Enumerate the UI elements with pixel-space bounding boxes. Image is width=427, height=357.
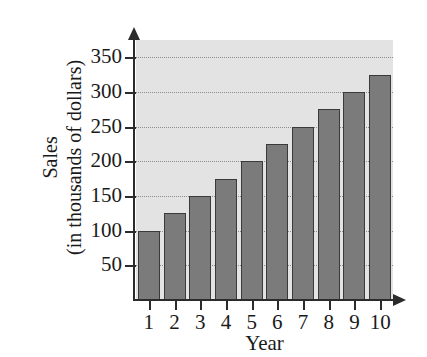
bar [138,231,160,300]
x-axis-tick [252,301,254,310]
gridline [136,57,393,58]
y-axis-tick-label-text: 200 [60,150,122,171]
x-axis-tick [329,301,331,310]
bar [164,213,186,300]
x-axis-tick [354,301,356,310]
bar [241,161,263,300]
x-axis-title: Year [136,333,393,354]
bar [369,75,391,300]
x-axis-line [133,299,395,301]
x-axis-tick [175,301,177,310]
x-axis-tick [200,301,202,310]
y-axis-tick-label-text: 50 [60,254,122,275]
y-axis-tick-label-text: 100 [60,220,122,241]
y-axis-arrow-icon [128,27,140,40]
bar [215,179,237,300]
bar-chart-figure: Sales (in thousands of dollars) 50100150… [0,0,427,357]
bar [318,109,340,300]
bar [189,196,211,300]
bar [266,144,288,300]
x-axis-tick [380,301,382,310]
y-axis-line [133,38,135,300]
x-axis-tick [149,301,151,310]
bar [292,127,314,300]
x-axis-tick [226,301,228,310]
x-axis-tick [303,301,305,310]
x-axis-tick [277,301,279,310]
y-axis-tick-label-text: 250 [60,116,122,137]
y-axis-tick-label-text: 300 [60,81,122,102]
bar [343,92,365,300]
x-axis-tick-label: 10 [360,312,400,333]
y-axis-tick-label-text: 350 [60,46,122,67]
y-axis-title-line-1: Sales [38,60,62,255]
y-axis-tick-label-text: 150 [60,185,122,206]
x-axis-arrow-icon [393,294,406,306]
